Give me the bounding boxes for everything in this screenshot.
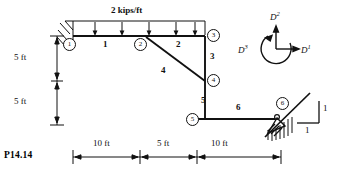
slope-run-label: 1 — [305, 126, 310, 135]
slope-rise-label: 1 — [323, 104, 328, 113]
node-5: 5 — [186, 113, 199, 126]
dimension-horizontal-2: 5 ft — [157, 139, 169, 148]
node-1: 1 — [63, 38, 76, 51]
member-label-4: 4 — [161, 66, 166, 75]
dimension-horizontal-3: 10 ft — [211, 139, 228, 148]
problem-tag: P14.14 — [4, 150, 32, 160]
dof-label-d1: D1 — [301, 44, 311, 55]
vertical-dimension-line — [50, 36, 64, 125]
d1-arrowhead — [293, 47, 299, 52]
member-label-1: 1 — [103, 40, 108, 49]
structure-diagram — [0, 0, 348, 175]
member-label-6: 6 — [236, 103, 241, 112]
dimension-vertical-1: 5 ft — [14, 53, 26, 62]
dof-label-d3: D3 — [238, 44, 248, 55]
dof-key-axes — [261, 26, 299, 64]
horizontal-dimension-line — [73, 150, 281, 164]
slope-triangle — [297, 101, 319, 123]
dimension-vertical-2: 5 ft — [14, 97, 26, 106]
member-label-3: 3 — [210, 52, 215, 61]
d2-arrowhead — [274, 26, 279, 32]
dof-label-d2: D2 — [270, 11, 280, 22]
node-3: 3 — [207, 29, 220, 42]
node-6: 6 — [276, 97, 289, 110]
member-label-2: 2 — [176, 40, 181, 49]
dimension-horizontal-1: 10 ft — [93, 139, 110, 148]
node-2: 2 — [134, 38, 147, 51]
node-4: 4 — [207, 74, 220, 87]
member-label-5: 5 — [201, 96, 206, 105]
load-label: 2 kips/ft — [111, 6, 142, 15]
distributed-load — [73, 21, 205, 36]
